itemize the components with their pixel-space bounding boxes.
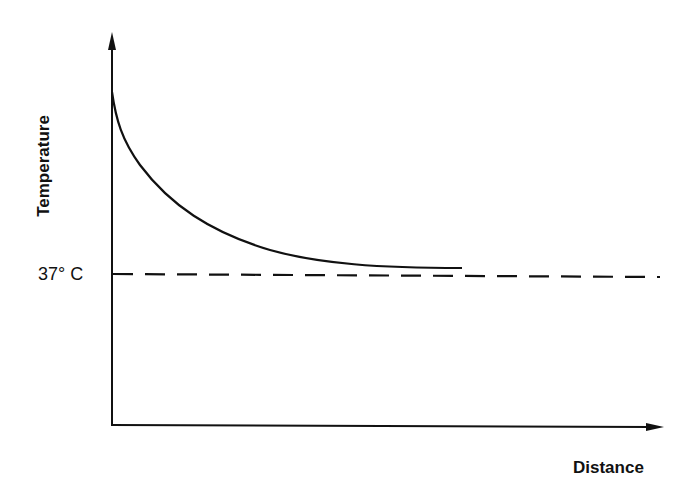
reference-label: 37° C <box>38 264 83 285</box>
x-axis-line <box>111 425 652 427</box>
x-axis-label: Distance <box>573 458 644 478</box>
reference-line-37c <box>113 274 660 277</box>
y-axis-label: Temperature <box>34 115 54 217</box>
chart-canvas <box>0 0 699 491</box>
temperature-curve <box>112 92 462 268</box>
y-axis-arrow-icon <box>108 32 116 50</box>
x-axis-arrow-icon <box>646 423 664 431</box>
